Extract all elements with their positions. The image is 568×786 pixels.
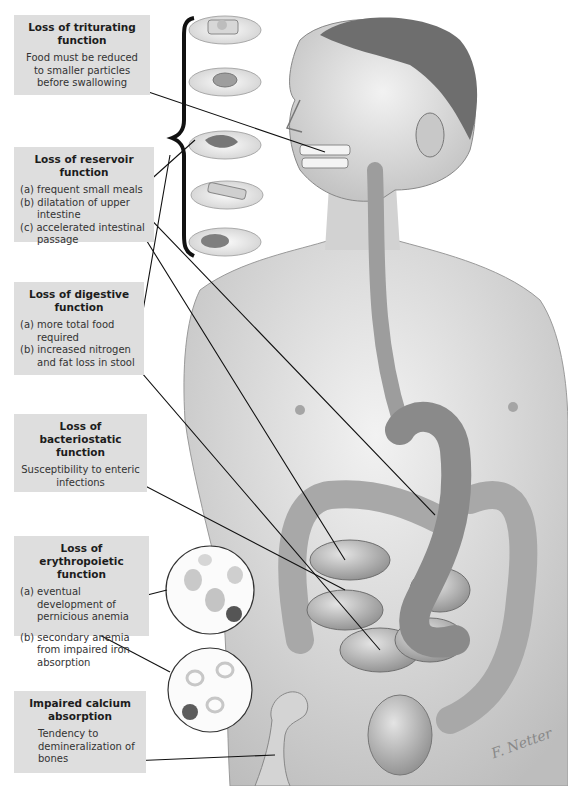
box-text: Susceptibility to enteric infections — [20, 464, 141, 489]
box-item: (b) secondary anemia from impaired iron … — [20, 632, 143, 670]
box-item: (a) more total food required — [20, 319, 138, 344]
meal-bracket — [172, 18, 194, 256]
box-reservoir: Loss of reservoir function (a) frequent … — [14, 147, 154, 242]
box-title: Loss of digestive function — [20, 288, 138, 314]
box-erythropoietic: Loss of erythropoietic function (a) even… — [14, 536, 149, 636]
box-title: Loss of reservoir function — [20, 153, 148, 179]
box-title: Loss of bacteriostatic function — [20, 420, 141, 459]
rectum — [368, 695, 432, 775]
box-item: (a) eventual development of pernicious a… — [20, 586, 143, 624]
box-item: (b) increased nitrogen and fat loss in s… — [20, 344, 138, 369]
box-text: Tendency to demineralization of bones — [20, 728, 140, 766]
box-triturating: Loss of triturating function Food must b… — [14, 15, 150, 95]
box-text: Food must be reduced to smaller particle… — [20, 52, 144, 90]
box-item: (a) frequent small meals — [20, 184, 148, 197]
box-digestive: Loss of digestive function (a) more tota… — [14, 282, 144, 375]
box-title: Loss of erythropoietic function — [20, 542, 143, 581]
box-bacteriostatic: Loss of bacteriostatic function Suscepti… — [14, 414, 147, 492]
food-plates — [189, 16, 263, 256]
box-item: (c) accelerated intestinal passage — [20, 222, 148, 247]
box-title: Loss of triturating function — [20, 21, 144, 47]
box-title: Impaired calcium absorption — [20, 697, 140, 723]
box-calcium: Impaired calcium absorption Tendency to … — [14, 691, 146, 773]
box-item: (b) dilatation of upper intestine — [20, 197, 148, 222]
